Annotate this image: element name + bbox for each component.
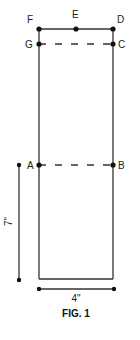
height-dimension: 7" xyxy=(3,163,21,282)
point-c-dot xyxy=(110,41,115,46)
label-a: A xyxy=(27,160,34,171)
point-a-dot xyxy=(36,162,41,167)
label-g: G xyxy=(25,39,33,50)
point-f-dot xyxy=(36,26,41,31)
label-e: E xyxy=(72,9,79,20)
rectangle-outline xyxy=(39,29,113,279)
label-f: F xyxy=(27,14,33,25)
figure-caption: FIG. 1 xyxy=(62,308,90,319)
height-dimension-label: 7" xyxy=(3,216,14,226)
label-b: B xyxy=(118,160,125,171)
point-dots xyxy=(36,26,115,167)
width-dimension: 4" xyxy=(37,287,116,304)
fig-1-diagram: F E D G C A B 7" 4" FIG. 1 xyxy=(0,0,140,340)
point-d-dot xyxy=(110,26,115,31)
width-dimension-label: 4" xyxy=(71,293,81,304)
point-e-dot xyxy=(73,26,78,31)
label-c: C xyxy=(118,39,125,50)
label-d: D xyxy=(117,14,124,25)
point-g-dot xyxy=(36,41,41,46)
point-b-dot xyxy=(110,162,115,167)
